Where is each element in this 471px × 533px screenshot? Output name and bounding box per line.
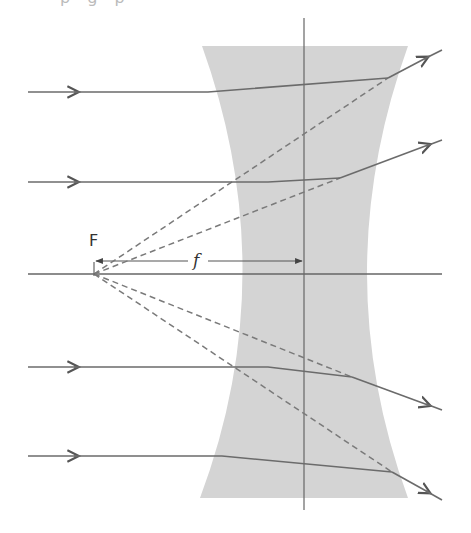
focal-point-label: F (89, 231, 98, 250)
focal-length-label: f (193, 250, 199, 270)
diverging-lens-diagram (0, 0, 471, 533)
